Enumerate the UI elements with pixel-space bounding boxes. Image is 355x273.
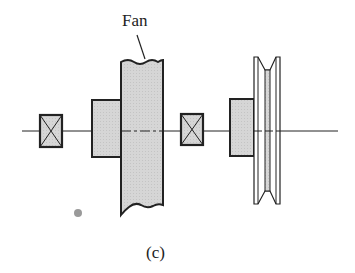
fan-label: Fan (122, 11, 148, 31)
ink-dot (74, 209, 82, 217)
bearing-left (40, 115, 62, 147)
fan-leader-line (137, 35, 145, 59)
bearing-right (181, 114, 203, 145)
fan-hub (92, 100, 121, 157)
figure-caption: (c) (146, 243, 165, 263)
pulley-hub (230, 99, 254, 156)
v-belt-pulley (254, 57, 280, 204)
fan (121, 60, 163, 215)
shaft-assembly-diagram (0, 0, 355, 273)
